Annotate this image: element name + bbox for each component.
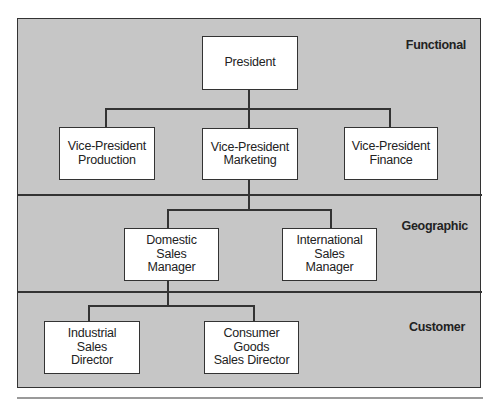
connector-line bbox=[167, 209, 331, 211]
node-vp-marketing: Vice-President Marketing bbox=[202, 128, 298, 180]
bottom-rule bbox=[17, 397, 483, 399]
section-divider-functional-geographic bbox=[17, 194, 482, 196]
connector-line bbox=[330, 209, 332, 228]
connector-line bbox=[88, 305, 254, 307]
section-label-geographic: Geographic bbox=[402, 219, 468, 233]
connector-line bbox=[248, 179, 250, 210]
connector-line bbox=[248, 89, 250, 109]
node-vp-production: Vice-President Production bbox=[59, 127, 155, 180]
node-president: President bbox=[202, 36, 298, 90]
node-consumer-goods-sales-director: Consumer Goods Sales Director bbox=[204, 321, 299, 374]
section-divider-geographic-customer bbox=[17, 291, 482, 293]
connector-line bbox=[253, 305, 255, 321]
section-label-customer: Customer bbox=[409, 320, 465, 334]
node-industrial-sales-director: Industrial Sales Director bbox=[44, 321, 140, 374]
node-international-sales-manager: International Sales Manager bbox=[282, 228, 377, 281]
node-vp-finance: Vice-President Finance bbox=[344, 127, 438, 180]
node-domestic-sales-manager: Domestic Sales Manager bbox=[124, 228, 219, 281]
connector-line bbox=[105, 108, 107, 127]
connector-line bbox=[248, 108, 250, 128]
section-label-functional: Functional bbox=[406, 38, 466, 52]
connector-line bbox=[167, 209, 169, 228]
connector-line bbox=[88, 305, 90, 321]
connector-line bbox=[389, 108, 391, 127]
connector-line bbox=[167, 280, 169, 306]
